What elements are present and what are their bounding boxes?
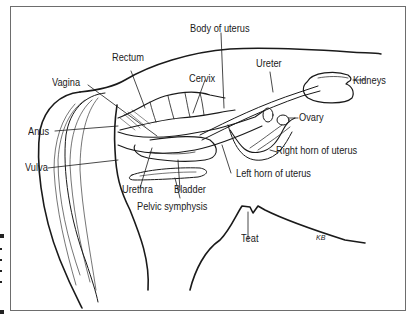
leader-rectum: [131, 71, 145, 108]
label-body-of-uterus: Body of uterus: [190, 23, 250, 34]
label-ureter: Ureter: [256, 58, 282, 69]
label-vagina: Vagina: [52, 77, 80, 88]
label-anus: Anus: [28, 126, 49, 137]
label-teat: Teat: [241, 233, 258, 244]
label-rectum: Rectum: [112, 52, 144, 63]
label-kidneys: Kidneys: [353, 75, 386, 86]
ovary-left: [263, 108, 273, 122]
label-cervix: Cervix: [189, 73, 215, 84]
leader-urethra: [140, 148, 152, 188]
label-ovary: Ovary: [299, 112, 324, 123]
pelvic-symphysis: [129, 168, 206, 180]
leader-vagina: [88, 85, 157, 136]
kidneys: [303, 72, 353, 103]
leader-vulva: [48, 160, 118, 168]
bladder: [134, 137, 216, 162]
label-right-horn: Right horn of uterus: [276, 145, 357, 156]
label-vulva: Vulva: [25, 162, 48, 173]
label-bladder: Bladder: [174, 184, 206, 195]
anatomy-illustration: [0, 0, 411, 317]
leader-ureter: [270, 72, 273, 92]
belly-outline: [190, 206, 365, 290]
label-left-horn: Left horn of uterus: [236, 168, 311, 179]
ovary-right: [277, 115, 289, 125]
artist-signature: KB: [316, 234, 325, 242]
leader-left-horn: [222, 145, 231, 173]
label-urethra: Urethra: [122, 184, 153, 195]
label-pelvic-symphysis: Pelvic symphysis: [137, 201, 207, 212]
